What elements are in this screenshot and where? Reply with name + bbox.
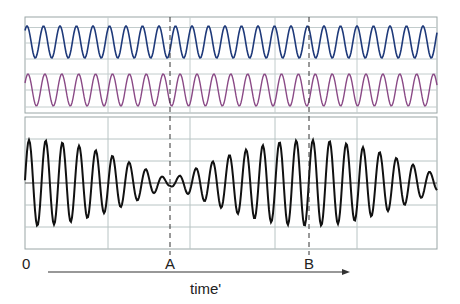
upper-panel (25, 17, 437, 113)
beat-chart (0, 0, 460, 304)
lower-panel (25, 117, 437, 249)
origin-label: 0 (22, 256, 30, 271)
marker-b-label: B (304, 256, 314, 271)
marker-a-label: A (165, 256, 175, 271)
time-axis-label: time' (190, 281, 221, 296)
